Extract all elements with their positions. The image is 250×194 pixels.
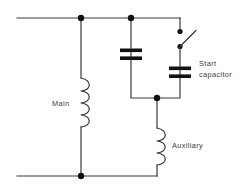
auxiliary-winding-label: Auxiliary [172, 141, 203, 150]
run-cap-lower-wire [131, 60, 157, 98]
run-capacitor-branch [120, 18, 157, 98]
node-bottom-left-junction [78, 173, 84, 179]
centrifugal-switch[interactable] [177, 29, 196, 49]
auxiliary-winding-coil [157, 128, 165, 165]
start-capacitor-branch [157, 18, 196, 98]
node-top-mid-junction [128, 15, 134, 21]
main-winding-label: Main [52, 99, 69, 108]
start-capacitor-label-line1: Start [199, 59, 216, 68]
switch-upper-contact-dot [177, 29, 182, 34]
node-mid-junction [154, 95, 160, 101]
start-capacitor-label-line2: capacitor [199, 70, 232, 79]
main-winding-coil [81, 78, 89, 127]
junction-nodes [78, 15, 160, 179]
circuit-canvas: Main Auxiliary Start capacitor [0, 0, 250, 194]
start-cap-lower-wire [157, 78, 180, 98]
circuit-diagram: Main Auxiliary Start capacitor [0, 0, 250, 194]
switch-blade-icon [181, 31, 197, 47]
node-top-left-junction [78, 15, 84, 21]
main-winding-branch [81, 18, 89, 176]
auxiliary-winding-branch [157, 98, 165, 176]
